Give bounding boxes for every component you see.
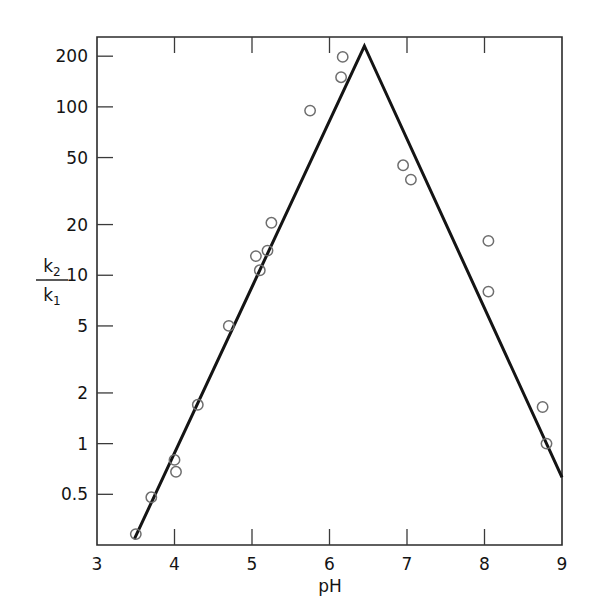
data-point-marker (255, 265, 265, 275)
scatter-plot-svg: 0.5125102050100200 3456789 k2 k1 pH (0, 0, 595, 612)
y-tick-label: 50 (66, 148, 88, 168)
y-tick-label: 0.5 (61, 484, 88, 504)
y-tick-label: 5 (77, 316, 88, 336)
y-tick-label: 100 (56, 97, 88, 117)
data-points (131, 52, 552, 540)
y-tick-label: 1 (77, 434, 88, 454)
data-point-marker (224, 321, 234, 331)
chart-figure: 0.5125102050100200 3456789 k2 k1 pH (0, 0, 595, 612)
y-tick-label: 20 (66, 215, 88, 235)
data-point-marker (398, 160, 408, 170)
data-point-marker (406, 174, 416, 184)
y-axis-title-denominator: k1 (43, 285, 61, 308)
data-point-marker (541, 438, 551, 448)
y-tick-label: 200 (56, 46, 88, 66)
data-point-marker (483, 286, 493, 296)
x-axis-ticks (175, 37, 485, 545)
x-tick-label: 4 (169, 554, 180, 574)
data-point-marker (336, 72, 346, 82)
data-point-marker (537, 402, 547, 412)
x-tick-label: 3 (92, 554, 103, 574)
x-tick-label: 6 (324, 554, 335, 574)
data-point-marker (169, 455, 179, 465)
x-tick-label: 5 (247, 554, 258, 574)
data-point-marker (193, 400, 203, 410)
x-axis-title: pH (318, 576, 342, 596)
fit-line (134, 46, 562, 539)
x-tick-label: 9 (557, 554, 568, 574)
data-point-marker (262, 245, 272, 255)
data-point-marker (305, 105, 315, 115)
data-point-marker (338, 52, 348, 62)
data-point-marker (131, 529, 141, 539)
data-point-marker (171, 467, 181, 477)
y-axis-ticks (97, 56, 113, 494)
x-tick-label: 8 (479, 554, 490, 574)
y-tick-label: 2 (77, 383, 88, 403)
data-point-marker (483, 236, 493, 246)
x-tick-label: 7 (402, 554, 413, 574)
data-point-marker (251, 251, 261, 261)
x-axis-tick-labels: 3456789 (92, 554, 568, 574)
data-point-marker (146, 492, 156, 502)
data-point-marker (266, 218, 276, 228)
y-tick-label: 10 (66, 265, 88, 285)
y-axis-title-numerator: k2 (43, 256, 61, 279)
y-axis-title: k2 k1 (36, 256, 68, 308)
